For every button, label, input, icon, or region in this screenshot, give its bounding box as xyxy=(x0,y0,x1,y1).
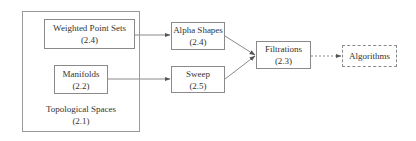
node-label: Filtrations xyxy=(265,43,302,55)
diagram-canvas: Topological Spaces (2.1) Weighted Point … xyxy=(0,0,416,141)
node-label: Weighted Point Sets xyxy=(53,22,126,34)
node-ref: (2.5) xyxy=(189,80,206,92)
node-label: Manifolds xyxy=(63,68,100,80)
node-label: Algorithms xyxy=(349,50,390,62)
node-manifolds[interactable]: Manifolds (2.2) xyxy=(54,65,108,94)
node-weighted-point-sets[interactable]: Weighted Point Sets (2.4) xyxy=(44,19,135,49)
edge-sweep-to-filtrations xyxy=(225,56,255,79)
node-alpha-shapes[interactable]: Alpha Shapes (2.4) xyxy=(171,22,225,50)
node-label: Sweep xyxy=(186,68,210,80)
node-filtrations[interactable]: Filtrations (2.3) xyxy=(256,41,311,69)
group-ref: (2.1) xyxy=(22,115,140,127)
group-caption: Topological Spaces (2.1) xyxy=(22,103,140,127)
node-ref: (2.4) xyxy=(81,34,98,46)
edge-alpha-to-filtrations xyxy=(225,36,255,55)
group-label: Topological Spaces xyxy=(22,103,140,115)
node-ref: (2.3) xyxy=(275,55,292,67)
node-sweep[interactable]: Sweep (2.5) xyxy=(171,66,225,93)
node-algorithms[interactable]: Algorithms xyxy=(342,45,397,67)
node-label: Alpha Shapes xyxy=(173,24,223,36)
node-ref: (2.4) xyxy=(189,36,206,48)
node-ref: (2.2) xyxy=(72,80,89,92)
